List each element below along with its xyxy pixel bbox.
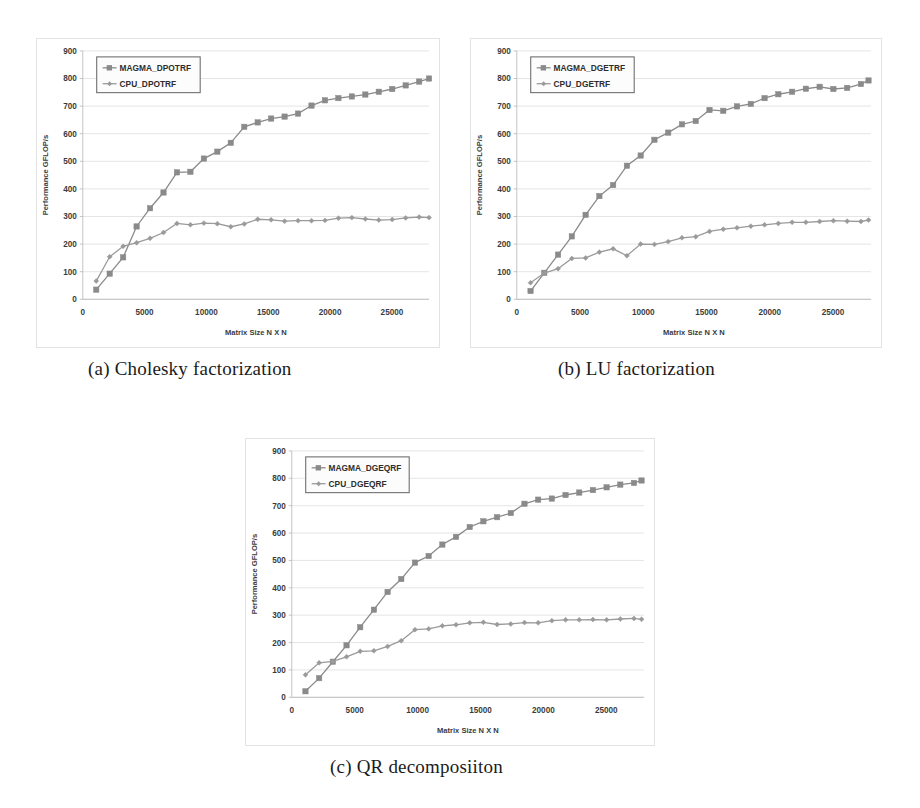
- chart-panel-qr: 0100200300400500600700800900050001000015…: [245, 438, 655, 746]
- legend-label: MAGMA_DPOTRF: [120, 63, 191, 73]
- figure-root: 0100200300400500600700800900050001000015…: [0, 0, 920, 808]
- x-tick-label: 15000: [469, 706, 492, 715]
- y-tick-label: 600: [497, 130, 511, 139]
- chart-panel-cholesky: 0100200300400500600700800900050001000015…: [36, 38, 440, 348]
- legend: MAGMA_DGEQRFCPU_DGEQRF: [306, 457, 409, 493]
- y-tick-label: 800: [272, 474, 286, 483]
- caption-a: (a) Cholesky factorization: [88, 358, 292, 380]
- y-tick-label: 900: [272, 447, 286, 456]
- series-magma_dpotrf: [94, 76, 432, 292]
- y-tick-label: 500: [497, 157, 511, 166]
- y-tick-label: 0: [72, 295, 77, 304]
- y-tick-label: 400: [272, 584, 286, 593]
- legend-label: CPU_DPOTRF: [120, 79, 177, 89]
- x-tick-label: 0: [290, 706, 295, 715]
- y-tick-label: 400: [497, 185, 511, 194]
- y-tick-label: 700: [63, 102, 77, 111]
- x-tick-label: 25000: [595, 706, 618, 715]
- y-tick-label: 300: [497, 213, 511, 222]
- x-axis-title: Matrix Size N X N: [225, 328, 287, 337]
- y-tick-label: 800: [497, 75, 511, 84]
- x-tick-label: 10000: [406, 706, 429, 715]
- x-tick-label: 5000: [571, 308, 590, 317]
- caption-c: (c) QR decomposiiton: [330, 756, 503, 778]
- y-tick-label: 600: [272, 529, 286, 538]
- y-tick-label: 400: [63, 185, 77, 194]
- legend: MAGMA_DGETRFCPU_DGETRF: [531, 57, 634, 93]
- y-tick-label: 700: [497, 102, 511, 111]
- y-tick-label: 300: [272, 611, 286, 620]
- chart-lu: 0100200300400500600700800900050001000015…: [471, 39, 881, 347]
- x-tick-label: 10000: [632, 308, 655, 317]
- x-tick-label: 25000: [822, 308, 845, 317]
- series-magma_dgetrf: [528, 78, 871, 294]
- x-axis-title: Matrix Size N X N: [663, 328, 725, 337]
- x-tick-label: 15000: [257, 308, 280, 317]
- legend-label: MAGMA_DGETRF: [554, 63, 625, 73]
- legend-label: MAGMA_DGEQRF: [329, 463, 402, 473]
- y-tick-label: 100: [63, 268, 77, 277]
- legend-label: CPU_DGETRF: [554, 79, 611, 89]
- x-tick-label: 20000: [758, 308, 781, 317]
- series-cpu_dpotrf: [94, 215, 432, 284]
- y-tick-label: 600: [63, 130, 77, 139]
- x-tick-label: 15000: [695, 308, 718, 317]
- y-axis-title: Performance GFLOP/s: [250, 534, 259, 614]
- chart-qr: 0100200300400500600700800900050001000015…: [246, 439, 654, 745]
- series-cpu_dgeqrf: [303, 616, 644, 677]
- x-tick-label: 5000: [136, 308, 155, 317]
- legend-label: CPU_DGEQRF: [329, 479, 387, 489]
- y-tick-label: 500: [272, 556, 286, 565]
- x-tick-label: 0: [81, 308, 86, 317]
- x-tick-label: 0: [515, 308, 520, 317]
- x-tick-label: 5000: [346, 706, 365, 715]
- y-tick-label: 200: [272, 639, 286, 648]
- chart-cholesky: 0100200300400500600700800900050001000015…: [37, 39, 439, 347]
- y-axis-title: Performance GFLOP/s: [41, 135, 50, 215]
- y-tick-label: 300: [63, 212, 77, 221]
- y-tick-label: 100: [272, 666, 286, 675]
- y-tick-label: 200: [63, 240, 77, 249]
- y-tick-label: 700: [272, 502, 286, 511]
- y-tick-label: 0: [506, 295, 511, 304]
- y-tick-label: 900: [63, 47, 77, 56]
- y-tick-label: 200: [497, 240, 511, 249]
- chart-panel-lu: 0100200300400500600700800900050001000015…: [470, 38, 882, 348]
- x-axis-title: Matrix Size N X N: [437, 726, 499, 735]
- series-magma_dgeqrf: [303, 478, 644, 694]
- series-cpu_dgetrf: [528, 218, 871, 286]
- y-tick-label: 900: [497, 47, 511, 56]
- x-tick-label: 20000: [532, 706, 555, 715]
- y-axis-title: Performance GFLOP/s: [475, 135, 484, 215]
- y-tick-label: 0: [281, 693, 286, 702]
- x-tick-label: 25000: [381, 308, 404, 317]
- y-tick-label: 800: [63, 75, 77, 84]
- legend: MAGMA_DPOTRFCPU_DPOTRF: [97, 57, 200, 93]
- caption-b: (b) LU factorization: [558, 358, 715, 380]
- x-tick-label: 20000: [319, 308, 342, 317]
- y-tick-label: 100: [497, 268, 511, 277]
- y-tick-label: 500: [63, 157, 77, 166]
- x-tick-label: 10000: [195, 308, 218, 317]
